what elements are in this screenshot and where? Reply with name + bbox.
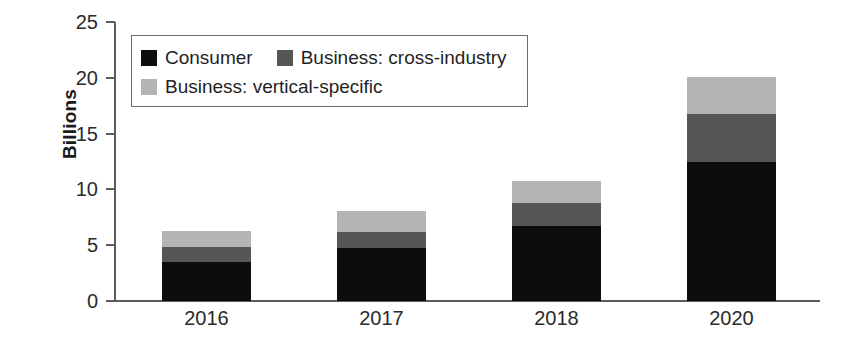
y-tick-mark [106,77,115,79]
legend-swatch-cross-industry-icon [277,50,293,66]
bar-segment-vertical-specific-2018[interactable] [512,181,601,203]
bar-2018[interactable] [512,181,601,301]
bar-segment-consumer-2020[interactable] [687,162,776,302]
y-tick-label-text: 15 [52,123,98,146]
bar-segment-consumer-2016[interactable] [162,262,251,301]
bar-2016[interactable] [162,231,251,301]
y-tick-mark [106,21,115,23]
bar-segment-cross-industry-2018[interactable] [512,203,601,226]
x-tick-label-2017: 2017 [307,307,456,330]
bar-segment-vertical-specific-2020[interactable] [687,77,776,114]
legend-swatch-vertical-specific-icon [141,79,157,95]
x-tick-label-2016: 2016 [132,307,281,330]
legend-entry-consumer: Consumer [141,48,253,67]
legend-label-vertical-specific: Business: vertical-specific [165,77,383,96]
stacked-bar-chart: Billions 0510152025 2016201720182020 Con… [0,0,860,348]
legend-swatch-consumer-icon [141,50,157,66]
chart-legend: Consumer Business: cross-industry Busine… [131,35,528,107]
y-tick-label-text: 25 [52,11,98,34]
legend-entry-cross-industry: Business: cross-industry [277,48,507,67]
bar-segment-consumer-2018[interactable] [512,226,601,301]
y-tick-mark [106,300,115,302]
y-tick-label-text: 5 [52,234,98,257]
bar-2017[interactable] [337,211,426,301]
legend-label-consumer: Consumer [165,48,253,67]
bar-2020[interactable] [687,77,776,301]
y-tick-mark [106,244,115,246]
bar-segment-cross-industry-2016[interactable] [162,247,251,262]
bar-segment-consumer-2017[interactable] [337,248,426,301]
legend-row-1: Consumer Business: cross-industry [141,43,527,72]
bar-segment-cross-industry-2017[interactable] [337,232,426,248]
x-tick-label-2020: 2020 [657,307,806,330]
y-axis-line [114,22,116,302]
legend-row-2: Business: vertical-specific [141,72,527,101]
bar-segment-vertical-specific-2016[interactable] [162,231,251,248]
y-tick-label-text: 10 [52,178,98,201]
y-tick-label-text: 0 [52,290,98,313]
x-tick-label-2018: 2018 [482,307,631,330]
y-tick-label-text: 20 [52,67,98,90]
bar-segment-cross-industry-2020[interactable] [687,114,776,162]
bar-segment-vertical-specific-2017[interactable] [337,211,426,232]
legend-entry-vertical-specific: Business: vertical-specific [141,77,383,96]
y-tick-mark [106,133,115,135]
y-tick-mark [106,188,115,190]
legend-label-cross-industry: Business: cross-industry [301,48,507,67]
